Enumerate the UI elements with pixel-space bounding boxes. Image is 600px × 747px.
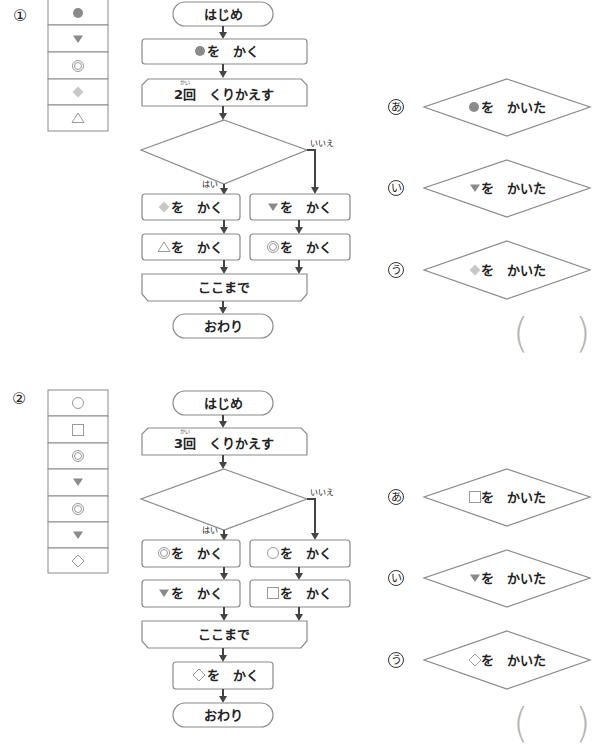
- svg-text:を かいた: を かいた: [481, 100, 546, 115]
- svg-text:を かく: を かく: [280, 546, 332, 561]
- svg-text:(: (: [513, 700, 529, 746]
- flowchart: はじめ かい 3回 くりかえす いいえ はい を かく を かく: [141, 391, 350, 727]
- loop-start-label: 2回 くりかえす: [174, 87, 274, 102]
- svg-text:い: い: [391, 572, 402, 585]
- option-u[interactable]: う を かいた: [389, 241, 591, 299]
- svg-text:を かいた: を かいた: [481, 263, 546, 278]
- svg-text:う: う: [391, 654, 402, 667]
- decision-diamond: [141, 120, 307, 184]
- svg-text:): ): [575, 310, 591, 356]
- flowchart: はじめ を かく かい 2回 くりかえす いいえ はい: [141, 2, 350, 338]
- svg-text:を かく: を かく: [171, 240, 223, 255]
- svg-text:を かく: を かく: [207, 668, 259, 683]
- no-label: いいえ: [310, 139, 334, 148]
- option-i[interactable]: い を かいた: [389, 550, 591, 607]
- answer-box[interactable]: ( ): [513, 700, 591, 746]
- svg-text:を かく: を かく: [171, 546, 223, 561]
- svg-text:を かいた: を かいた: [481, 490, 546, 505]
- option-i[interactable]: い を かいた: [389, 160, 591, 217]
- start-label: はじめ: [204, 7, 243, 22]
- svg-text:を かく: を かく: [280, 240, 332, 255]
- svg-text:い: い: [391, 182, 402, 195]
- process-label: を かく: [207, 44, 259, 59]
- svg-text:を かいた: を かいた: [481, 181, 546, 196]
- answer-box[interactable]: ( ): [513, 310, 591, 356]
- filled-circle-icon: [195, 46, 205, 56]
- filled-circle-icon: [469, 102, 479, 112]
- answer-options: あ を かいた い を かいた う を かいた: [389, 469, 591, 689]
- yes-label: はい: [202, 526, 218, 535]
- start-label: はじめ: [204, 396, 243, 411]
- problem-number: ①: [13, 6, 27, 25]
- svg-text:を かく: を かく: [280, 200, 332, 215]
- svg-text:(: (: [513, 310, 529, 356]
- svg-text:あ: あ: [391, 101, 402, 114]
- no-label: いいえ: [310, 488, 334, 497]
- svg-text:を かいた: を かいた: [481, 653, 546, 668]
- sequence-column: [48, 390, 108, 573]
- option-a[interactable]: あ を かいた: [389, 79, 591, 136]
- end-label: おわり: [204, 708, 243, 723]
- filled-circle-icon: [73, 8, 83, 18]
- svg-text:を かく: を かく: [171, 200, 223, 215]
- problem-number: ②: [12, 389, 26, 408]
- sequence-column: [48, 0, 108, 131]
- problem-1: ① はじめ を かく: [13, 0, 591, 356]
- svg-text:): ): [575, 700, 591, 746]
- problem-2: ② はじめ かい 3回 くりかえす: [12, 389, 591, 746]
- svg-text:あ: あ: [391, 491, 402, 504]
- svg-text:う: う: [391, 264, 402, 277]
- svg-text:かい: かい: [180, 79, 190, 86]
- svg-text:かい: かい: [180, 428, 190, 435]
- option-u[interactable]: う を かいた: [389, 631, 591, 689]
- answer-options: あ を かいた い を かいた う を かいた: [389, 79, 591, 299]
- option-a[interactable]: あ を かいた: [389, 469, 591, 526]
- end-label: おわり: [204, 319, 243, 334]
- loop-start-label: 3回 くりかえす: [174, 436, 274, 451]
- svg-text:を かく: を かく: [171, 586, 223, 601]
- svg-text:を かいた: を かいた: [481, 571, 546, 586]
- svg-text:を かく: を かく: [280, 586, 332, 601]
- yes-label: はい: [202, 180, 218, 189]
- loop-end-label: ここまで: [198, 280, 250, 295]
- decision-diamond: [141, 469, 307, 530]
- loop-end-label: ここまで: [198, 627, 250, 642]
